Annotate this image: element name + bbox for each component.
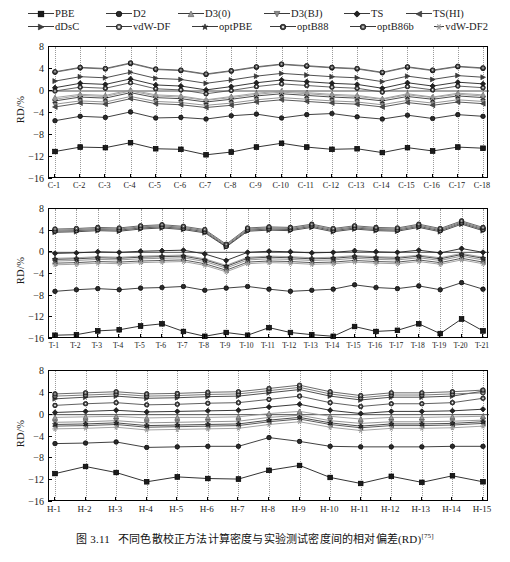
data-point: [175, 474, 180, 479]
data-point: [352, 283, 357, 288]
x-axis-tick-mark: [79, 174, 80, 178]
data-point: [117, 327, 122, 332]
data-point: [297, 402, 302, 407]
x-axis-tick-mark: [207, 497, 208, 501]
data-point: [206, 401, 211, 406]
legend-item-optpbe[interactable]: optPBE: [192, 21, 270, 32]
square-marker-icon: [38, 10, 45, 17]
x-axis-tick-label: C-8: [224, 181, 236, 190]
data-point: [355, 115, 360, 120]
x-axis-tick-mark: [332, 334, 333, 338]
x-axis-tick-mark: [281, 174, 282, 178]
data-point: [53, 69, 58, 74]
data-point: [78, 114, 83, 119]
legend-item-d3-bj-[interactable]: D3(BJ): [264, 8, 344, 19]
y-axis-tick-label: −12: [28, 311, 48, 322]
legend-swatch-ddsc: [28, 26, 54, 27]
y-axis-tick-label: 4: [39, 224, 48, 235]
data-point: [144, 479, 149, 484]
circle-dot-marker-icon: [116, 23, 123, 30]
caption-reference: [75]: [421, 532, 433, 540]
legend-swatch-ts: [344, 13, 370, 14]
x-axis-tick-label: T-11: [261, 341, 275, 350]
x-axis-tick-label: C-2: [73, 181, 85, 190]
x-axis-tick-mark: [140, 334, 141, 338]
data-point: [481, 287, 486, 292]
x-axis-tick-label: C-14: [373, 181, 389, 190]
y-axis-tick-label: 8: [39, 203, 48, 214]
triangle-left-marker-icon: [416, 10, 423, 17]
data-point: [245, 284, 250, 289]
y-axis-tick-mark: [48, 273, 52, 274]
legend-item-optb86b[interactable]: optB86b: [350, 21, 434, 32]
data-point: [481, 388, 486, 393]
data-point: [117, 226, 122, 231]
y-axis-tick-mark: [48, 46, 52, 47]
legend-label: vdW-DF2: [445, 21, 488, 32]
x-axis-tick-label: C-6: [174, 181, 186, 190]
legend-item-optb88[interactable]: optB88: [270, 21, 350, 32]
data-point: [53, 441, 58, 446]
plot-area-c: [48, 46, 488, 178]
data-point: [310, 222, 315, 227]
data-point: [160, 222, 165, 227]
x-axis-tick-mark: [97, 334, 98, 338]
data-point: [304, 112, 309, 117]
legend-item-d3-0-[interactable]: D3(0): [178, 8, 264, 19]
data-point: [430, 149, 435, 154]
data-point: [288, 289, 293, 294]
series-ddsc: [53, 70, 486, 86]
legend-item-vdw-df[interactable]: vdW-DF: [106, 21, 192, 32]
legend-item-ts[interactable]: TS: [344, 8, 406, 19]
x-axis-tick-mark: [54, 497, 55, 501]
data-point: [179, 88, 184, 93]
legend-item-ts-hi-[interactable]: TS(HI): [406, 8, 490, 19]
x-axis-tick-mark: [54, 174, 55, 178]
series-layer: [49, 209, 489, 339]
series-optb86b: [53, 61, 486, 77]
y-axis-tick-label: −16: [28, 496, 48, 507]
legend-item-ddsc[interactable]: dDsC: [28, 21, 106, 32]
data-point: [395, 286, 400, 291]
legend-swatch-optpbe: [192, 26, 218, 27]
data-point: [236, 444, 241, 449]
x-axis-tick-label: T-2: [70, 341, 80, 350]
legend-swatch-vdw-df2: [434, 26, 444, 27]
data-point: [438, 226, 443, 231]
data-point: [438, 287, 443, 292]
data-point: [430, 77, 435, 82]
data-point: [83, 409, 88, 414]
data-point: [330, 65, 335, 70]
legend-row: dDsCvdW-DFoptPBEoptB88optB86bvdW-DF2: [28, 21, 490, 32]
x-axis-tick-mark: [299, 497, 300, 501]
data-point: [103, 145, 108, 150]
y-axis-tick-label: −4: [33, 268, 48, 279]
x-axis-tick-label: C-12: [323, 181, 339, 190]
y-axis-tick-mark: [48, 156, 52, 157]
data-point: [53, 392, 58, 397]
data-point: [389, 474, 394, 479]
x-axis-tick-label: C-13: [348, 181, 364, 190]
legend-item-d2[interactable]: D2: [106, 8, 178, 19]
data-point: [358, 393, 363, 398]
x-axis-tick-mark: [439, 334, 440, 338]
data-point: [267, 325, 272, 330]
y-axis-tick-mark: [48, 90, 52, 91]
y-axis-tick-mark: [48, 436, 52, 437]
data-point: [224, 258, 229, 263]
legend-item-vdw-df2[interactable]: vdW-DF2: [434, 21, 490, 32]
y-axis-tick-mark: [48, 178, 52, 179]
legend-item-pbe[interactable]: PBE: [28, 8, 106, 19]
legend-row: PBED2D3(0)D3(BJ)TSTS(HI): [28, 8, 490, 19]
data-point: [430, 68, 435, 73]
legend-label: D2: [133, 8, 146, 19]
x-axis-tick-label: H-10: [320, 504, 339, 514]
caption-text: 不同色散校正方法计算密度与实验测试密度间的相对偏差(RD): [118, 533, 421, 545]
data-point: [481, 85, 486, 90]
x-axis-tick-label: H-11: [351, 504, 369, 514]
data-point: [175, 402, 180, 407]
data-point: [138, 223, 143, 228]
data-point: [438, 250, 443, 255]
data-point: [179, 77, 184, 82]
data-point: [114, 470, 119, 475]
